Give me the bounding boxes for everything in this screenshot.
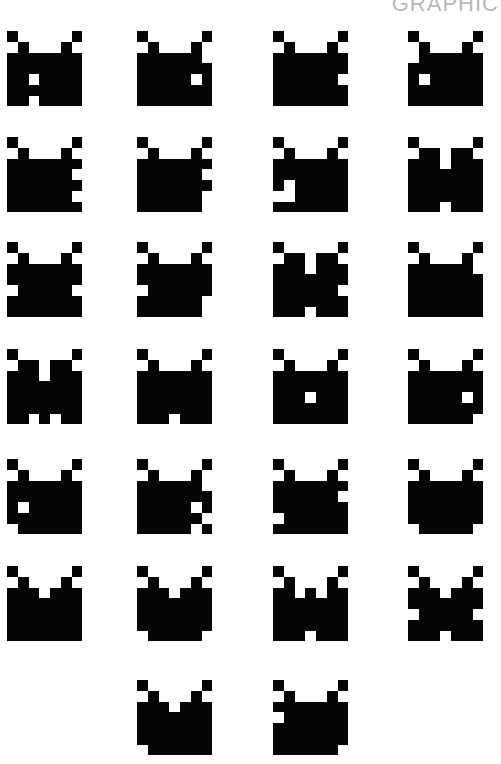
pixel <box>148 360 159 371</box>
pixel <box>148 274 159 285</box>
pixel <box>137 202 148 213</box>
pixel <box>148 42 159 53</box>
pixel <box>295 180 306 191</box>
pixel <box>7 403 18 414</box>
pixel <box>316 96 327 107</box>
pixel <box>18 392 29 403</box>
pixel <box>430 191 441 202</box>
pixel <box>29 202 40 213</box>
pixel <box>137 307 148 318</box>
pixel <box>29 264 40 275</box>
pixel <box>18 631 29 642</box>
pixel <box>180 96 191 107</box>
pixel <box>18 274 29 285</box>
pixel <box>202 459 213 470</box>
pixel <box>18 414 29 425</box>
pixel <box>18 307 29 318</box>
pixel <box>159 307 170 318</box>
pixel-creature-icon <box>7 349 82 424</box>
pixel <box>430 74 441 85</box>
pixel <box>50 381 61 392</box>
pixel <box>316 403 327 414</box>
pixel <box>61 202 72 213</box>
pixel <box>419 491 430 502</box>
pixel <box>7 242 18 253</box>
pixel <box>169 159 180 170</box>
pixel <box>137 159 148 170</box>
pixel <box>39 74 50 85</box>
pixel <box>305 723 316 734</box>
pixel <box>72 459 83 470</box>
pixel <box>72 513 83 524</box>
pixel <box>180 631 191 642</box>
pixel <box>180 371 191 382</box>
pixel <box>327 63 338 74</box>
pixel <box>61 96 72 107</box>
pixel <box>61 620 72 631</box>
pixel <box>50 307 61 318</box>
pixel <box>29 85 40 96</box>
pixel-creature-icon <box>408 137 483 212</box>
pixel <box>18 180 29 191</box>
pixel <box>137 680 148 691</box>
pixel <box>159 85 170 96</box>
pixel <box>39 96 50 107</box>
pixel <box>169 285 180 296</box>
pixel <box>295 307 306 318</box>
pixel <box>7 274 18 285</box>
pixel <box>419 631 430 642</box>
pixel <box>148 74 159 85</box>
pixel <box>273 159 284 170</box>
pixel <box>50 96 61 107</box>
pixel <box>305 63 316 74</box>
pixel <box>430 392 441 403</box>
pixel <box>169 631 180 642</box>
pixel <box>29 524 40 535</box>
pixel <box>295 414 306 425</box>
pixel <box>473 403 484 414</box>
pixel <box>419 307 430 318</box>
pixel <box>316 598 327 609</box>
pixel <box>7 31 18 42</box>
pixel <box>284 481 295 492</box>
pixel <box>148 191 159 202</box>
pixel <box>148 470 159 481</box>
pixel <box>202 74 213 85</box>
pixel <box>180 381 191 392</box>
pixel <box>137 414 148 425</box>
pixel <box>169 371 180 382</box>
pixel <box>451 169 462 180</box>
pixel <box>191 148 202 159</box>
pixel <box>440 392 451 403</box>
pixel <box>440 74 451 85</box>
pixel <box>295 609 306 620</box>
pixel <box>451 180 462 191</box>
pixel <box>473 202 484 213</box>
pixel <box>338 481 349 492</box>
pixel <box>202 63 213 74</box>
pixel <box>462 63 473 74</box>
pixel <box>316 74 327 85</box>
pixel <box>202 264 213 275</box>
pixel <box>7 414 18 425</box>
pixel <box>451 191 462 202</box>
pixel <box>148 285 159 296</box>
pixel <box>50 502 61 513</box>
pixel <box>305 180 316 191</box>
pixel <box>180 307 191 318</box>
pixel <box>148 180 159 191</box>
pixel <box>18 53 29 64</box>
pixel <box>18 253 29 264</box>
pixel <box>159 403 170 414</box>
pixel <box>159 96 170 107</box>
pixel-creature-icon <box>408 459 483 534</box>
pixel <box>408 180 419 191</box>
pixel <box>18 371 29 382</box>
pixel <box>61 491 72 502</box>
pixel <box>284 513 295 524</box>
pixel <box>338 85 349 96</box>
pixel <box>284 491 295 502</box>
pixel <box>284 588 295 599</box>
pixel <box>408 159 419 170</box>
pixel <box>180 481 191 492</box>
